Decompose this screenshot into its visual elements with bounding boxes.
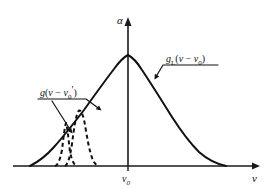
narrow-label-close-paren: ) <box>74 87 77 99</box>
x-axis-label: ν <box>252 172 257 184</box>
figure-canvas: α ν ν0 gL(ν − ν0) <box>0 0 270 188</box>
broad-label-minus: − <box>183 53 194 64</box>
spectral-lineshape-figure: α ν ν0 gL(ν − ν0) <box>0 0 270 188</box>
x-axis-tick-label-nu0: ν0 <box>122 173 130 187</box>
narrow-label-minus: − <box>53 87 64 98</box>
axis-labels-group: α ν ν0 <box>117 14 257 187</box>
y-axis-label: α <box>117 14 123 26</box>
tick-label-subscript: 0 <box>126 179 130 187</box>
y-axis-arrowhead <box>125 17 132 26</box>
narrow-curve-label: g(ν − ν0′) <box>40 84 77 101</box>
narrow-curve-annotation: g(ν − ν0′) <box>38 84 102 134</box>
x-axis-arrowhead <box>252 163 260 170</box>
broad-label-close-paren: ) <box>202 53 205 65</box>
broad-curve-leader-line <box>156 65 219 78</box>
narrow-curve-leader-line-lower <box>52 101 71 131</box>
broad-curve-annotation: gL(ν − ν0) <box>155 53 219 80</box>
narrow-curve-right-path <box>65 110 99 166</box>
